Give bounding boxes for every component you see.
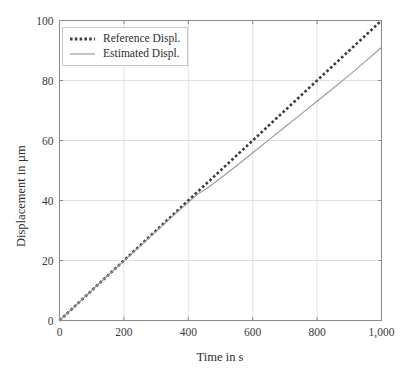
legend-item-reference: Reference Displ. [69, 31, 180, 46]
series-line-1 [60, 48, 382, 321]
y-tick-label-20: 20 [0, 255, 54, 267]
legend-label-reference: Reference Displ. [103, 33, 180, 45]
x-tick-label-800: 800 [308, 326, 325, 338]
y-tick-label-80: 80 [0, 75, 54, 87]
legend-swatch-dotted-line [69, 34, 96, 44]
y-axis-title: Displacement in µm [14, 145, 29, 247]
legend-swatch-solid-line [69, 49, 96, 59]
x-tick-label-200: 200 [115, 326, 132, 338]
legend-item-estimated: Estimated Displ. [69, 46, 180, 61]
legend-label-estimated: Estimated Displ. [103, 48, 180, 60]
chart-figure: 02040608010002004006008001,000 Displacem… [0, 0, 410, 371]
chart-legend: Reference Displ. Estimated Displ. [62, 27, 188, 66]
x-tick-label-600: 600 [244, 326, 261, 338]
y-tick-label-0: 0 [0, 315, 54, 327]
y-tick-label-100: 100 [0, 15, 54, 27]
x-tick-label-1000: 1,000 [369, 326, 395, 338]
x-axis-title: Time in s [197, 350, 244, 365]
x-tick-label-0: 0 [57, 326, 63, 338]
x-tick-label-400: 400 [180, 326, 197, 338]
